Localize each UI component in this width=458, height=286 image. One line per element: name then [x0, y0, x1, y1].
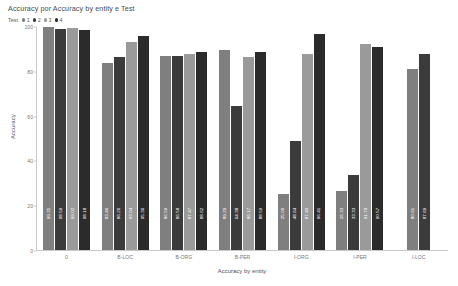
bar-group: 89.2964.3886.1788.50B-PER: [213, 27, 272, 250]
bar[interactable]: 87.40: [302, 54, 313, 250]
bar[interactable]: 26.33: [336, 191, 347, 250]
x-axis-title: Accuracy by entity: [36, 268, 448, 274]
bar-value-label: 80.61: [410, 208, 415, 220]
chart-container: Accuracy por Accuracy by entity e Test T…: [0, 0, 458, 286]
chart-title: Accuracy por Accuracy by entity e Test: [8, 4, 135, 13]
bar[interactable]: 80.61: [407, 69, 418, 250]
bar-group: 26.3333.3391.7890.57I-PER: [331, 27, 390, 250]
legend-label-4: 4: [59, 17, 62, 23]
bar[interactable]: 64.38: [231, 106, 242, 250]
y-axis-title: Accuracy: [10, 114, 16, 139]
bar[interactable]: 86.26: [114, 57, 125, 250]
bar[interactable]: 83.46: [102, 63, 113, 250]
bar-value-label: 33.33: [351, 208, 356, 220]
bar[interactable]: 88.50: [255, 52, 266, 250]
y-tick-mark: [34, 116, 37, 117]
legend-swatch-1: [22, 18, 26, 22]
bar-group: 80.6187.69I-LOC: [389, 27, 448, 250]
bar[interactable]: 86.17: [243, 57, 254, 250]
x-tick-label: B-PER: [213, 254, 272, 260]
legend-title: Test: [8, 17, 18, 23]
legend-swatch-4: [55, 18, 59, 22]
y-tick-label: 60: [27, 114, 33, 120]
bar[interactable]: 99.02: [67, 28, 78, 250]
bar-value-label: 93.04: [129, 208, 134, 220]
y-tick-label: 20: [27, 203, 33, 209]
y-tick-mark: [34, 27, 37, 28]
bar-value-label: 98.18: [82, 208, 87, 220]
bar-group: 25.0048.6487.4096.41I-ORG: [272, 27, 331, 250]
legend-label-3: 3: [49, 17, 52, 23]
y-tick-label: 40: [27, 158, 33, 164]
bar[interactable]: 33.33: [348, 175, 359, 250]
x-axis-line: [36, 250, 448, 251]
y-tick-mark: [34, 251, 37, 252]
bar[interactable]: 93.04: [126, 42, 137, 250]
bar-value-label: 48.64: [293, 208, 298, 220]
bar-value-label: 86.26: [117, 208, 122, 220]
bar[interactable]: 96.41: [314, 34, 325, 250]
bar-value-label: 91.78: [363, 208, 368, 220]
bar-value-label: 88.62: [199, 208, 204, 220]
bar[interactable]: 98.18: [79, 30, 90, 250]
bar[interactable]: 86.59: [160, 56, 171, 250]
bar[interactable]: 86.58: [172, 56, 183, 250]
y-tick-mark: [34, 161, 37, 162]
x-tick-label: I-LOC: [389, 254, 448, 260]
bar[interactable]: 25.00: [278, 194, 289, 250]
bar[interactable]: 48.64: [290, 141, 301, 250]
bar-value-label: 90.57: [375, 208, 380, 220]
legend-label-1: 1: [27, 17, 30, 23]
bar[interactable]: 87.69: [419, 54, 430, 250]
legend-item-4[interactable]: 4: [55, 17, 63, 23]
bar-group: 83.4686.2693.0495.36B-LOC: [96, 27, 155, 250]
bar-value-label: 64.38: [234, 208, 239, 220]
bar[interactable]: 87.47: [184, 54, 195, 250]
y-tick-mark: [34, 206, 37, 207]
x-tick-label: B-LOC: [96, 254, 155, 260]
bar-value-label: 88.50: [258, 208, 263, 220]
bar[interactable]: 90.57: [372, 47, 383, 250]
bar-value-label: 25.00: [281, 208, 286, 220]
bar[interactable]: 89.29: [219, 50, 230, 250]
y-tick-label: 100: [25, 24, 34, 30]
bar[interactable]: 98.59: [55, 29, 66, 250]
legend-item-2[interactable]: 2: [33, 17, 41, 23]
chart-legend: Test 1 2 3 4: [8, 17, 62, 23]
bar-value-label: 26.33: [339, 208, 344, 220]
bar-value-label: 99.35: [46, 208, 51, 220]
plot-area: 020406080100 99.3598.5999.0298.18083.468…: [36, 27, 448, 251]
legend-item-3[interactable]: 3: [44, 17, 52, 23]
bar-value-label: 89.29: [222, 208, 227, 220]
legend-item-1[interactable]: 1: [22, 17, 30, 23]
bar-value-label: 86.59: [163, 208, 168, 220]
bar-value-label: 83.46: [105, 208, 110, 220]
bar[interactable]: 91.78: [360, 44, 371, 250]
legend-swatch-2: [33, 18, 37, 22]
bar[interactable]: 95.36: [138, 36, 149, 250]
bar-group: 86.5986.5887.4788.62B-ORG: [154, 27, 213, 250]
bar-value-label: 86.17: [246, 208, 251, 220]
bar-groups: 99.3598.5999.0298.18083.4686.2693.0495.3…: [37, 27, 448, 250]
x-tick-label: I-ORG: [272, 254, 331, 260]
legend-label-2: 2: [38, 17, 41, 23]
bar-value-label: 95.36: [141, 208, 146, 220]
bar-value-label: 87.69: [422, 208, 427, 220]
x-tick-label: I-PER: [331, 254, 390, 260]
bar-value-label: 98.59: [58, 208, 63, 220]
bar-group: 99.3598.5999.0298.180: [37, 27, 96, 250]
x-tick-label: 0: [37, 254, 96, 260]
bar-value-label: 86.58: [175, 208, 180, 220]
bar[interactable]: 99.35: [43, 27, 54, 250]
bar[interactable]: 88.62: [196, 52, 207, 251]
y-tick-mark: [34, 71, 37, 72]
y-tick-label: 80: [27, 69, 33, 75]
bar-value-label: 96.41: [317, 208, 322, 220]
bar-value-label: 87.40: [305, 208, 310, 220]
bar-value-label: 99.02: [70, 208, 75, 220]
x-tick-label: B-ORG: [154, 254, 213, 260]
bar-value-label: 87.47: [187, 208, 192, 220]
legend-swatch-3: [44, 18, 48, 22]
